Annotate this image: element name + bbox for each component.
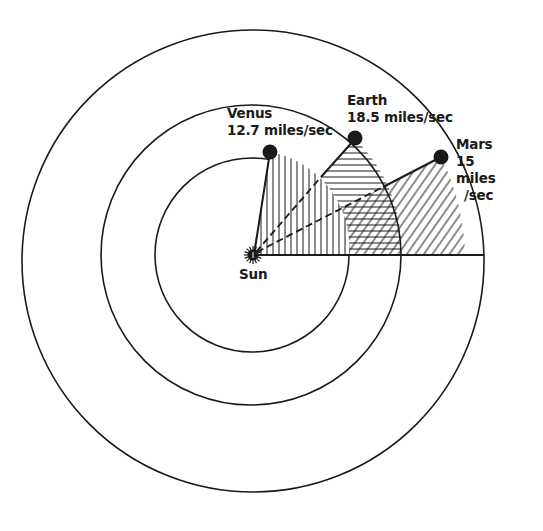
mars-speed-1: 15 (456, 153, 496, 170)
orbit-diagram (0, 0, 543, 531)
venus-label: Venus 12.7 miles/sec (227, 105, 333, 139)
venus-speed: 12.7 miles/sec (227, 122, 333, 139)
sun-icon (244, 246, 262, 264)
mars-planet-icon (434, 150, 449, 165)
sun-label: Sun (239, 266, 267, 283)
earth-planet-icon (348, 131, 363, 146)
mars-speed-2: miles (456, 170, 496, 187)
earth-name: Earth (347, 92, 453, 109)
mars-label: Mars 15 miles /sec (456, 136, 496, 204)
mars-name: Mars (456, 136, 496, 153)
venus-planet-icon (263, 145, 278, 160)
mars-speed-3: /sec (456, 187, 496, 204)
earth-label: Earth 18.5 miles/sec (347, 92, 453, 126)
earth-speed: 18.5 miles/sec (347, 109, 453, 126)
venus-name: Venus (227, 105, 333, 122)
